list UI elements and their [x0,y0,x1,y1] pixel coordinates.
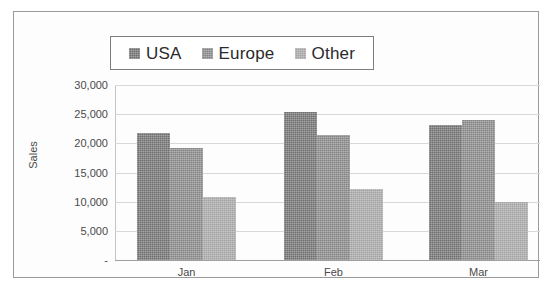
chart-frame: USA Europe Other Sales 30,00025,00020,00… [13,11,539,278]
plot-area [115,85,540,260]
bar-group-mar [429,85,528,260]
bar-other-jan[interactable] [203,197,236,260]
legend-item-other[interactable]: Other [295,45,356,62]
y-tick-label: 10,000 [46,196,108,207]
bar-usa-jan[interactable] [137,133,170,260]
y-tick-label: 30,000 [46,80,108,91]
y-axis-title: Sales [28,141,39,169]
y-tick-label: 5,000 [46,225,108,236]
bar-other-feb[interactable] [350,189,383,260]
legend-item-europe[interactable]: Europe [202,45,275,62]
chart-legend: USA Europe Other [110,36,374,70]
bar-europe-feb[interactable] [317,135,350,260]
bar-group-jan [137,85,236,260]
legend-label-usa: USA [146,45,182,62]
legend-item-usa[interactable]: USA [129,45,182,62]
x-axis-tick-labels: JanFebMar [115,267,540,287]
y-tick-label: 25,000 [46,109,108,120]
bar-europe-mar[interactable] [462,120,495,260]
bar-europe-jan[interactable] [170,148,203,260]
y-tick-label: - [46,255,108,266]
x-tick-label-jan: Jan [178,267,196,278]
y-tick-label: 15,000 [46,167,108,178]
legend-swatch-europe [202,48,213,59]
bar-group-feb [284,85,383,260]
bar-usa-feb[interactable] [284,112,317,260]
legend-label-europe: Europe [219,45,275,62]
bar-usa-mar[interactable] [429,125,462,260]
x-tick-label-mar: Mar [469,267,488,278]
legend-swatch-other [295,48,306,59]
bar-other-mar[interactable] [495,202,528,260]
x-axis-line [115,260,540,261]
legend-swatch-usa [129,48,140,59]
x-tick-label-feb: Feb [324,267,343,278]
y-axis-tick-labels: 30,00025,00020,00015,00010,0005,000- [42,12,108,291]
y-tick-label: 20,000 [46,138,108,149]
legend-label-other: Other [312,45,356,62]
